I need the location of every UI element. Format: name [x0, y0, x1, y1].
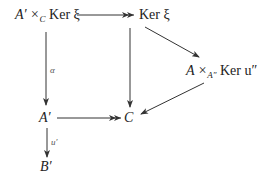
fiber-sub: A″: [207, 70, 216, 80]
node-fiber-product: A ×A″ Ker u″: [186, 64, 257, 80]
label-u-prime: u′: [51, 137, 57, 147]
node-b-prime: B′: [40, 160, 52, 174]
pullback-rest: Ker ξ: [46, 7, 80, 22]
arrow-fiber-to-c: [141, 83, 204, 114]
arrows-layer: [0, 0, 265, 182]
node-c: C: [124, 111, 133, 125]
pullback-main: A′ ×: [15, 7, 40, 22]
arrow-kerxi-to-fiber: [145, 27, 199, 57]
node-ker-xi: Ker ξ: [139, 8, 170, 22]
fiber-rest: Ker u″: [217, 63, 258, 78]
fiber-main: A ×: [186, 63, 207, 78]
node-pullback-kernel: A′ ×C Ker ξ: [15, 8, 80, 24]
label-alpha: α: [50, 65, 55, 75]
node-a-prime: A′: [39, 111, 51, 125]
